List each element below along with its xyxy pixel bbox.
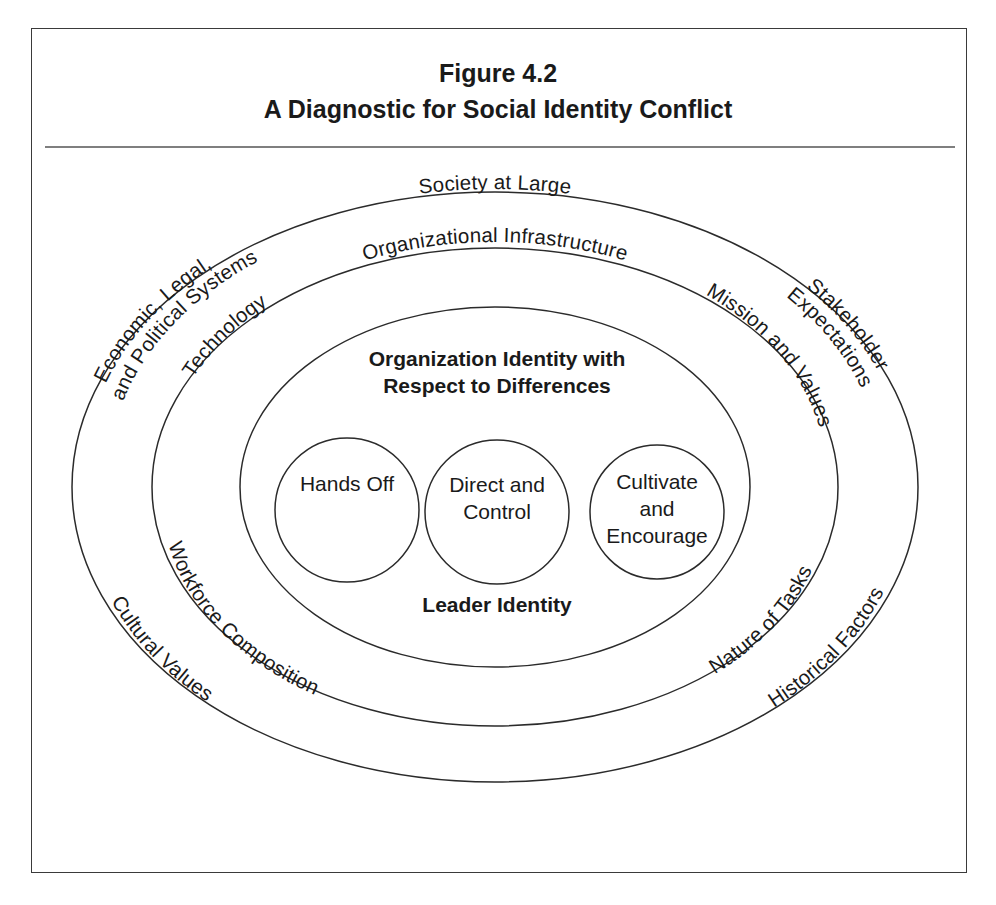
figure-number-label: Figure 4.2 <box>439 59 557 87</box>
diagram-canvas: Figure 4.2 A Diagnostic for Social Ident… <box>0 0 996 905</box>
leaf-label-hands-off-line1: Hands Off <box>300 472 394 495</box>
inner-ring-heading-line1: Organization Identity with <box>369 347 626 370</box>
leaf-circle-hands-off <box>275 438 419 582</box>
inner-ring-heading-line2: Respect to Differences <box>383 374 611 397</box>
middle-ring-label-nature-of-tasks: Nature of Tasks <box>705 561 816 677</box>
middle-ring-label-organizational-infrastructure: Organizational Infrastructure <box>359 223 630 264</box>
outer-ring-label-society-at-large: Society at Large <box>417 170 572 198</box>
leaf-label-cultivate-line3: Encourage <box>606 524 708 547</box>
figure-title: A Diagnostic for Social Identity Conflic… <box>264 95 733 123</box>
leaf-label-direct-and-control-line1: Direct and <box>449 473 545 496</box>
inner-ring-footer-leader-identity: Leader Identity <box>422 593 572 616</box>
leaf-label-cultivate-line2: and <box>639 497 674 520</box>
leaf-label-direct-and-control-line2: Control <box>463 500 531 523</box>
leaf-label-cultivate-line1: Cultivate <box>616 470 698 493</box>
figure-root: Figure 4.2 A Diagnostic for Social Ident… <box>0 0 996 905</box>
